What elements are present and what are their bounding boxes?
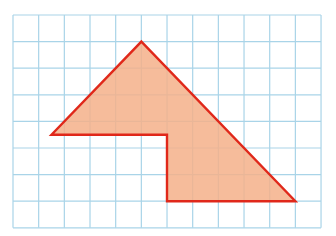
grid-figure [0,0,336,236]
